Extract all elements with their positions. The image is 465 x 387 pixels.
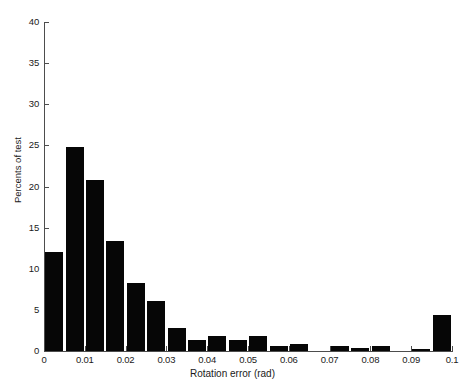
y-tick-label: 10 xyxy=(9,264,39,274)
histogram-bar xyxy=(45,252,63,351)
histogram-bar xyxy=(208,336,226,351)
y-tick-label: 5 xyxy=(9,305,39,315)
y-tick-mark xyxy=(44,351,49,352)
histogram-bar xyxy=(249,336,267,351)
histogram-bar xyxy=(433,315,451,351)
y-tick-label: 40 xyxy=(9,17,39,27)
histogram-bar xyxy=(351,348,369,351)
plot-area xyxy=(44,22,452,351)
histogram-figure: 0510152025303540 00.010.020.030.040.050.… xyxy=(0,0,465,387)
histogram-bar xyxy=(372,346,390,351)
histogram-bar xyxy=(106,241,124,351)
x-axis-label: Rotation error (rad) xyxy=(0,368,465,379)
histogram-bar xyxy=(229,340,247,351)
histogram-bar xyxy=(331,346,349,351)
histogram-bar xyxy=(66,147,84,351)
histogram-bar xyxy=(290,344,308,351)
x-tick-mark xyxy=(452,346,453,351)
histogram-bar xyxy=(127,283,145,351)
x-tick-label: 0.1 xyxy=(428,354,465,365)
y-axis-label: Percents of test xyxy=(11,100,25,240)
y-tick-label: 35 xyxy=(9,58,39,68)
histogram-bar xyxy=(147,301,165,351)
x-axis-line xyxy=(44,351,453,352)
histogram-bar xyxy=(188,340,206,351)
histogram-bar xyxy=(168,328,186,351)
histogram-bar xyxy=(412,349,430,351)
histogram-bar xyxy=(270,346,288,351)
y-axis-label-text: Percents of test xyxy=(11,100,25,240)
histogram-bar xyxy=(86,180,104,351)
